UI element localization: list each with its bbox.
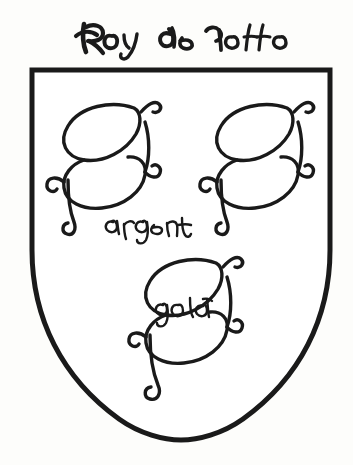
coat-of-arms-illustration <box>0 0 353 465</box>
heraldry-plate-page: Roy de Yorsse argent gold S S S <box>0 0 353 465</box>
